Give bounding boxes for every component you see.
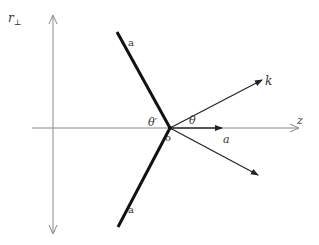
diagram-canvas: r⊥ a a θ′ θ o a k z <box>0 0 319 245</box>
horizontal-axis-label: z <box>296 114 303 127</box>
vector-a-label: a <box>223 133 230 146</box>
angle-theta-prime-label: θ′ <box>148 116 158 129</box>
vector-k <box>170 80 262 128</box>
diagram-svg: r⊥ a a θ′ θ o a k z <box>0 0 319 245</box>
vertical-axis-label: r⊥ <box>8 11 21 27</box>
vector-lower <box>170 128 258 175</box>
vector-k-label: k <box>265 74 272 88</box>
line-a-upper-label: a <box>128 37 134 48</box>
vertical-axis <box>49 15 57 234</box>
horizontal-axis <box>32 124 299 132</box>
origin-label: o <box>165 132 171 143</box>
thick-line-a <box>117 32 170 227</box>
origin-point <box>168 126 172 130</box>
angle-theta-label: θ <box>189 114 196 127</box>
line-a-lower-label: a <box>128 204 134 215</box>
